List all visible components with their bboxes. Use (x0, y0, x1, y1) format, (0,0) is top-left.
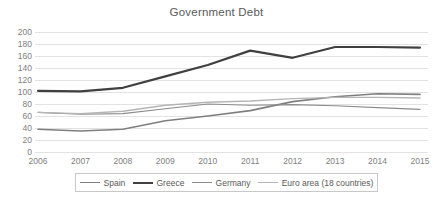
y-tick-label: 80 (6, 99, 32, 109)
legend-swatch-euro-area-18-countries (258, 182, 278, 183)
chart-container: Government Debt 020406080100120140160180… (0, 0, 433, 203)
series-lines-group (38, 47, 420, 131)
x-tick-label: 2011 (234, 156, 266, 166)
x-tick-label: 2008 (107, 156, 139, 166)
x-tick-label: 2013 (319, 156, 351, 166)
y-tick-label: 60 (6, 111, 32, 121)
legend-swatch-germany (192, 182, 212, 183)
y-tick-label: 140 (6, 63, 32, 73)
x-tick-label: 2014 (362, 156, 394, 166)
legend-swatch-greece (133, 182, 153, 184)
y-tick-label: 160 (6, 51, 32, 61)
x-tick-label: 2012 (277, 156, 309, 166)
y-tick-label: 120 (6, 75, 32, 85)
y-tick-label: 20 (6, 135, 32, 145)
series-line-greece (38, 47, 420, 91)
x-tick-label: 2006 (22, 156, 54, 166)
legend-label-germany: Germany (216, 178, 251, 188)
chart-legend: SpainGreeceGermanyEuro area (18 countrie… (75, 173, 378, 192)
legend-label-spain: Spain (104, 178, 126, 188)
x-tick-label: 2009 (149, 156, 181, 166)
legend-item-greece[interactable]: Greece (133, 178, 185, 188)
legend-item-spain[interactable]: Spain (80, 178, 126, 188)
y-tick-label: 40 (6, 123, 32, 133)
legend-label-greece: Greece (157, 178, 185, 188)
y-tick-label: 0 (6, 147, 32, 157)
legend-item-germany[interactable]: Germany (192, 178, 251, 188)
x-tick-label: 2007 (64, 156, 96, 166)
y-tick-label: 100 (6, 87, 32, 97)
legend-label-euro-area-18-countries: Euro area (18 countries) (282, 178, 374, 188)
x-tick-label: 2010 (192, 156, 224, 166)
x-tick-label: 2015 (404, 156, 433, 166)
legend-swatch-spain (80, 182, 100, 183)
y-tick-label: 200 (6, 27, 32, 37)
y-tick-label: 180 (6, 39, 32, 49)
series-line-euro-area-18-countries (38, 97, 420, 113)
gridlines-group (35, 32, 428, 152)
legend-item-euro-area-18-countries[interactable]: Euro area (18 countries) (258, 178, 374, 188)
